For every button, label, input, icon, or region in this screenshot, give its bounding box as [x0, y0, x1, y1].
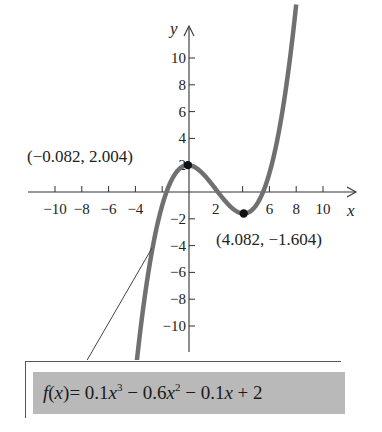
axes: [28, 26, 356, 352]
max-point-label: (−0.082, 2.004): [27, 147, 133, 166]
y-tick-label: −8: [170, 291, 186, 307]
formula-x3: x: [109, 382, 117, 403]
formula-x: x: [55, 382, 63, 403]
x-tick-label: −8: [74, 201, 90, 217]
min-point-label: (4.082, −1.604): [216, 230, 322, 249]
formula-x1: x: [224, 382, 232, 403]
x-tick-label: 10: [316, 201, 331, 217]
x-tick-label: 2: [212, 201, 220, 217]
formula-x2: x: [167, 382, 175, 403]
formula-eq: = 0.1: [69, 382, 108, 403]
y-tick-label: −10: [163, 318, 186, 334]
x-tick-label: 8: [292, 201, 300, 217]
formula-end: + 2: [233, 382, 263, 403]
x-tick-label: −4: [127, 201, 143, 217]
max-point: [184, 161, 192, 169]
x-tick-label: −6: [101, 201, 117, 217]
function-curve: [135, 4, 296, 360]
y-tick-label: −4: [170, 238, 186, 254]
formula-mid1: − 0.6: [123, 382, 167, 403]
formula-text: f(x)= 0.1x3 − 0.6x2 − 0.1x + 2: [43, 381, 263, 404]
x-tick-label: −10: [43, 201, 66, 217]
formula-box: f(x)= 0.1x3 − 0.6x2 − 0.1x + 2: [33, 372, 345, 414]
y-axis-label: y: [168, 19, 178, 38]
y-tick-label: 4: [179, 130, 187, 146]
function-graph: −10−8−6−426810−10−8−6−4−2246810 y x (−0.…: [0, 0, 382, 360]
x-axis-label: x: [346, 201, 355, 220]
y-tick-label: 10: [171, 50, 186, 66]
formula-mid2: − 0.1: [180, 382, 224, 403]
y-tick-label: −6: [170, 264, 186, 280]
y-tick-label: −2: [170, 211, 186, 227]
x-tick-label: 6: [266, 201, 274, 217]
y-tick-label: 6: [179, 104, 187, 120]
min-point: [239, 209, 247, 217]
y-tick-label: 8: [179, 77, 187, 93]
